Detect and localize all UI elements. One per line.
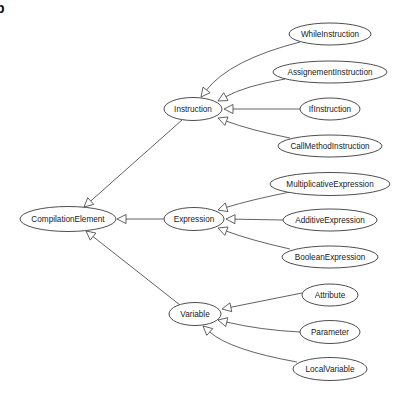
edge-line — [227, 322, 300, 332]
node-label: MultiplicativeExpression — [286, 180, 374, 189]
edge-if-instruction-to-instruction — [224, 105, 300, 114]
inheritance-arrowhead-icon — [117, 215, 126, 224]
inheritance-arrowhead-icon — [218, 93, 228, 101]
node-label: AssignementInstruction — [287, 68, 373, 77]
node-additive-expression: AdditiveExpression — [283, 209, 377, 231]
inheritance-arrowhead-icon — [218, 227, 228, 235]
edge-local-variable-to-variable — [203, 326, 297, 362]
edge-line — [226, 121, 290, 138]
node-expression: Expression — [164, 208, 224, 231]
edge-attribute-to-variable — [222, 293, 302, 312]
node-label: LocalVariable — [305, 365, 354, 374]
node-if-instruction: IfInstruction — [300, 98, 360, 120]
edge-boolean-expression-to-expression — [218, 227, 290, 249]
inheritance-arrowhead-icon — [218, 203, 228, 212]
edge-call-method-instruction-to-instruction — [218, 117, 290, 138]
node-multiplicative-expression: MultiplicativeExpression — [270, 173, 390, 196]
inheritance-arrowhead-icon — [218, 117, 228, 125]
edge-expression-to-compilation-element — [117, 215, 164, 224]
node-boolean-expression: BooleanExpression — [282, 246, 378, 268]
edge-line — [210, 332, 297, 362]
node-call-method-instruction: CallMethodInstruction — [278, 135, 382, 157]
node-variable: Variable — [169, 303, 221, 326]
edge-assignement-instruction-to-instruction — [218, 79, 285, 101]
inheritance-arrowhead-icon — [86, 231, 96, 240]
inheritance-arrowhead-icon — [201, 87, 210, 97]
edge-parameter-to-variable — [218, 318, 300, 332]
node-label: AdditiveExpression — [295, 216, 365, 225]
node-label: CompilationElement — [31, 215, 105, 224]
node-label: IfInstruction — [309, 105, 352, 114]
node-label: WhileInstruction — [301, 30, 360, 39]
edge-line — [231, 293, 302, 307]
edge-line — [226, 231, 290, 249]
edge-line — [91, 120, 182, 201]
node-label: Parameter — [311, 328, 349, 337]
node-while-instruction: WhileInstruction — [289, 23, 371, 45]
edge-line — [93, 237, 180, 305]
node-label: Variable — [180, 310, 210, 319]
node-attribute: Attribute — [302, 284, 358, 306]
edge-variable-to-compilation-element — [86, 231, 180, 305]
node-label: Instruction — [174, 105, 212, 114]
edge-multiplicative-expression-to-expression — [218, 192, 290, 212]
node-parameter: Parameter — [300, 321, 360, 344]
node-compilation-element: CompilationElement — [20, 207, 116, 232]
inheritance-arrowhead-icon — [84, 198, 94, 207]
inheritance-diagram: b CompilationElementInstructionExpressio… — [0, 0, 405, 400]
edge-line — [226, 79, 285, 97]
edge-line — [227, 192, 290, 207]
node-label: BooleanExpression — [295, 253, 366, 262]
node-label: Attribute — [315, 291, 346, 300]
node-assignement-instruction: AssignementInstruction — [273, 61, 387, 83]
node-local-variable: LocalVariable — [293, 358, 367, 381]
inheritance-arrowhead-icon — [203, 326, 213, 335]
inheritance-arrowhead-icon — [226, 215, 235, 224]
inheritance-arrowhead-icon — [218, 318, 228, 327]
inheritance-arrowhead-icon — [224, 105, 233, 114]
panel-label: b — [0, 0, 5, 16]
edge-line — [235, 219, 283, 220]
node-instruction: Instruction — [164, 98, 222, 121]
edge-additive-expression-to-expression — [226, 215, 283, 224]
node-label: CallMethodInstruction — [290, 142, 370, 151]
node-label: Expression — [174, 215, 215, 224]
edge-instruction-to-compilation-element — [84, 120, 182, 207]
inheritance-arrowhead-icon — [222, 303, 232, 312]
